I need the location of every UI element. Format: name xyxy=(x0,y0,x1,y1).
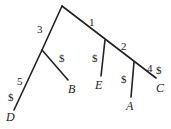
edge-label-dollar-E: $ xyxy=(92,52,98,64)
edge-label-1: 1 xyxy=(89,16,95,28)
edge-label-5: 5 xyxy=(17,75,23,87)
leaf-B: B xyxy=(68,82,76,96)
edge-label-dollar-A: $ xyxy=(121,73,127,85)
leaf-D: D xyxy=(5,110,15,124)
edge-n2-A xyxy=(131,62,134,97)
edge-label-dollar-B: $ xyxy=(59,52,65,64)
edge-label-2: 2 xyxy=(121,40,127,52)
leaf-A: A xyxy=(125,99,134,113)
edge-label-dollar-C: $ xyxy=(156,64,162,76)
leaf-E: E xyxy=(94,78,103,92)
edge-n1-E xyxy=(101,40,105,76)
edge-root-n3 xyxy=(42,6,62,50)
edge-label-3: 3 xyxy=(37,23,43,35)
leaf-C: C xyxy=(156,81,165,95)
edge-label-dollar-D: $ xyxy=(8,91,14,103)
edge-label-4: 4 xyxy=(147,62,153,74)
tree-diagram: 3 1 2 4 $ 5 $ $ $ $ D B E A C xyxy=(0,0,171,129)
edge-root-C xyxy=(62,6,156,78)
